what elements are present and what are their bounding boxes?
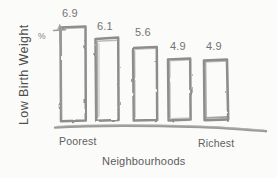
bar-1 [61, 27, 86, 122]
bar-value-label-5: 4.9 [206, 41, 222, 52]
bar-value-label-3: 5.6 [135, 27, 151, 38]
bar-5 [204, 60, 228, 121]
y-axis-title: Low Birth Weight [18, 24, 31, 125]
x-tick-label-richest: Richest [198, 138, 234, 149]
bar-value-label-4: 4.9 [170, 41, 186, 52]
y-axis-unit-label: % [38, 32, 46, 41]
x-axis-title: Neighbourhoods [102, 156, 186, 167]
bar-3 [133, 47, 157, 121]
bar-2 [96, 38, 119, 121]
chart-figure: 6.9 6.1 5.6 4.9 4.9 % Low Birth Weight P… [0, 0, 277, 178]
bar-value-label-2: 6.1 [97, 21, 113, 32]
bar-value-label-1: 6.9 [62, 8, 78, 19]
bar-4 [168, 59, 191, 121]
x-axis-baseline [55, 125, 266, 131]
x-tick-label-poorest: Poorest [59, 136, 97, 147]
